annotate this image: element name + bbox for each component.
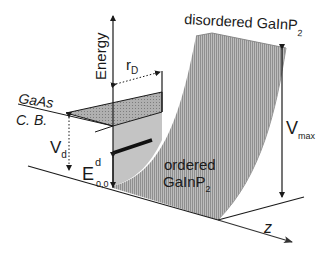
plateau-front-tick [95, 126, 113, 132]
ordered-label-line1: ordered [164, 156, 216, 173]
disordered-label: disordered GaInP2 [184, 11, 304, 38]
disordered-label-main: disordered GaInP [184, 11, 298, 33]
z-axis [218, 220, 292, 242]
vmax-label-main: V [286, 118, 298, 138]
energy-axis-label: Energy [92, 32, 109, 80]
gaas-cb-label: C. B. [16, 112, 47, 128]
diagram-canvas: Energy rD GaAs C. B. Vd E d 0,0 disorder… [0, 0, 328, 257]
e00-label-sup: d [95, 156, 101, 168]
z-axis-label: z [263, 219, 272, 236]
vmax-label: Vmax [286, 118, 316, 141]
gaas-label: GaAs [18, 90, 55, 111]
vmax-label-sub: max [298, 131, 316, 141]
rd-label: rD [126, 56, 138, 76]
ordered-label-main: GaInP [163, 173, 206, 190]
vd-label-sub: d [61, 149, 67, 160]
vd-label-main: V [50, 138, 62, 157]
e00-label-main: E [82, 164, 94, 184]
disordered-label-sub: 2 [297, 28, 303, 38]
rd-label-sub: D [131, 65, 138, 76]
ordered-label-sub: 2 [206, 184, 211, 194]
diagram-svg: Energy rD GaAs C. B. Vd E d 0,0 disorder… [0, 0, 328, 257]
vd-label: Vd [50, 138, 67, 160]
e00-label-sub: 0,0 [96, 179, 109, 189]
